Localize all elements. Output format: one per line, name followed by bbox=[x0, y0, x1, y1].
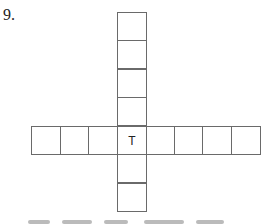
vertical-cell-4[interactable] bbox=[117, 97, 147, 126]
cropped-text-line bbox=[26, 218, 256, 224]
vertical-cell-1[interactable] bbox=[117, 12, 147, 41]
intersection-cell[interactable]: T bbox=[117, 126, 147, 155]
horizontal-cell-1[interactable] bbox=[31, 126, 61, 155]
vertical-cell-3[interactable] bbox=[117, 69, 147, 98]
horizontal-cell-3[interactable] bbox=[88, 126, 118, 155]
horizontal-cell-8[interactable] bbox=[231, 126, 261, 155]
vertical-cell-7[interactable] bbox=[117, 183, 147, 212]
vertical-cell-6[interactable] bbox=[117, 154, 147, 183]
vertical-cell-2[interactable] bbox=[117, 40, 147, 69]
horizontal-cell-6[interactable] bbox=[174, 126, 204, 155]
puzzle-number: 9. bbox=[3, 6, 15, 24]
horizontal-cell-2[interactable] bbox=[60, 126, 90, 155]
horizontal-cell-5[interactable] bbox=[146, 126, 176, 155]
horizontal-cell-7[interactable] bbox=[202, 126, 232, 155]
